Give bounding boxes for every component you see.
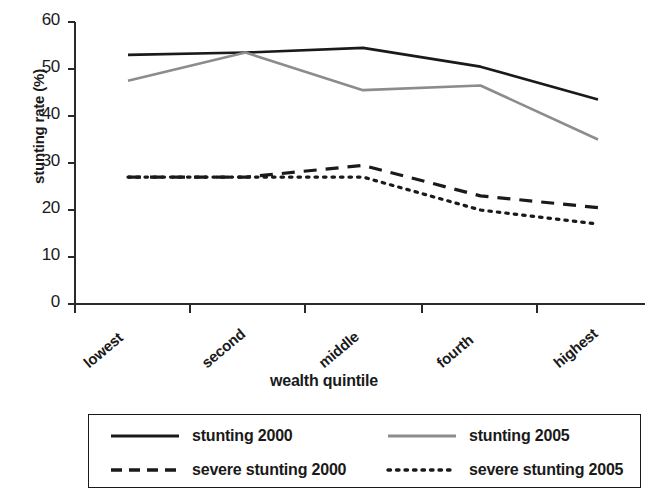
legend-label: stunting 2000 — [192, 427, 293, 445]
legend-label: stunting 2005 — [469, 427, 570, 445]
y-tick-label: 40 — [14, 104, 60, 124]
series-line-severe-stunting-2000 — [128, 165, 598, 207]
legend-row: severe stunting 2000 severe stunting 200… — [89, 451, 640, 488]
x-axis-title: wealth quintile — [0, 372, 648, 390]
legend-entry-stunting-2005: stunting 2005 — [386, 417, 570, 454]
legend-label: severe stunting 2005 — [469, 461, 623, 479]
y-tick-label: 0 — [14, 292, 60, 312]
series-line-stunting-2000 — [128, 48, 598, 100]
legend-entry-stunting-2000: stunting 2000 — [109, 417, 293, 454]
chart-figure: stunting rate (%) wealth quintile 010203… — [0, 0, 648, 491]
y-tick-label: 10 — [14, 245, 60, 265]
legend-row: stunting 2000 stunting 2005 — [89, 417, 640, 454]
y-tick-label: 30 — [14, 151, 60, 171]
legend-line-swatch-dashed-black — [109, 462, 181, 478]
chart-legend: stunting 2000 stunting 2005 severe stunt… — [88, 414, 641, 488]
series-line-stunting-2005 — [128, 53, 598, 140]
y-tick-label: 50 — [14, 57, 60, 77]
line-chart-plot-area — [0, 0, 648, 400]
legend-line-swatch-dotted-black — [386, 462, 458, 478]
legend-entry-severe-stunting-2005: severe stunting 2005 — [386, 451, 623, 488]
legend-line-swatch-solid-gray — [386, 428, 458, 444]
y-tick-label: 60 — [14, 10, 60, 30]
y-tick-label: 20 — [14, 198, 60, 218]
legend-line-swatch-solid-black — [109, 428, 181, 444]
legend-label: severe stunting 2000 — [192, 461, 346, 479]
legend-entry-severe-stunting-2000: severe stunting 2000 — [109, 451, 346, 488]
